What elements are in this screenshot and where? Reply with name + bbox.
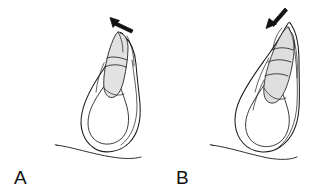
panel-label-b: B	[176, 167, 189, 188]
shaded-lobe	[264, 27, 295, 103]
motion-arrow	[266, 8, 288, 29]
motion-arrow	[110, 18, 133, 34]
arrow-shaft	[115, 22, 134, 33]
lobe-sheath-left	[253, 80, 264, 110]
figure-canvas: A	[0, 0, 322, 194]
figure-root: A	[0, 0, 322, 194]
baseline-curve	[56, 145, 141, 159]
baseline-curve	[211, 145, 297, 159]
panel-a: A	[14, 18, 141, 189]
panel-b: B	[176, 8, 299, 188]
panel-label-a: A	[14, 167, 27, 188]
